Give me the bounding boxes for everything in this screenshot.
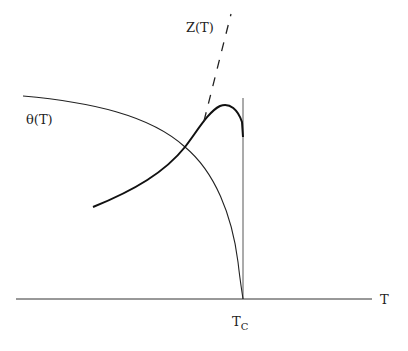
theta-label: θ(T) xyxy=(26,112,53,127)
theta-curve xyxy=(23,96,243,299)
t-axis-label: T xyxy=(380,292,389,307)
phase-diagram: Z(T) θ(T) T TC xyxy=(0,0,408,351)
z-curve xyxy=(93,105,243,207)
tc-label: TC xyxy=(232,314,249,332)
z-label: Z(T) xyxy=(186,20,214,35)
